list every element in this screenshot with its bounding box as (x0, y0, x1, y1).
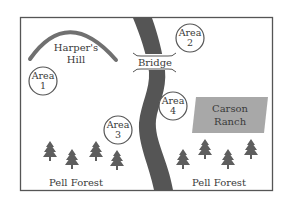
area-3-number: 3 (115, 129, 121, 140)
bridge: Bridge (133, 53, 176, 72)
harpers-hill-label-line2: Hill (67, 54, 85, 65)
pell-forest-right-label: Pell Forest (192, 177, 246, 188)
map-diagram: Bridge Harper's Hill Carson Ranch Area 1… (0, 0, 290, 204)
carson-ranch-label-line1: Carson (212, 103, 249, 114)
carson-ranch-label-line2: Ranch (214, 116, 247, 127)
area-3-marker: Area 3 (104, 116, 132, 144)
area-2-marker: Area 2 (176, 24, 204, 52)
area-1-marker: Area 1 (29, 67, 57, 95)
area-4-marker: Area 4 (159, 92, 187, 120)
pell-forest-left-label: Pell Forest (49, 177, 103, 188)
area-2-number: 2 (187, 37, 193, 48)
area-4-number: 4 (170, 105, 176, 116)
area-1-number: 1 (40, 80, 46, 91)
harpers-hill-label-line1: Harper's (54, 42, 98, 53)
bridge-label: Bridge (138, 57, 172, 68)
